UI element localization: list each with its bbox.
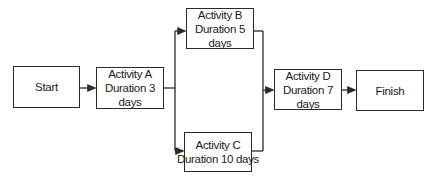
node-activity-c: Activity C Duration 10 days [184, 132, 252, 172]
node-activity-b: Activity B Duration 5 days [186, 8, 254, 49]
node-activity-d: Activity D Duration 7 days [274, 69, 342, 110]
node-label: Finish [376, 84, 405, 98]
node-start: Start [13, 66, 80, 108]
node-label: Activity D [286, 69, 331, 83]
node-duration: Duration 5 days [187, 22, 253, 50]
node-finish: Finish [356, 70, 424, 111]
node-label: Activity B [198, 8, 242, 22]
node-label: Activity C [196, 138, 241, 152]
node-label: Start [35, 80, 58, 94]
node-duration: Duration 3 days [97, 81, 163, 109]
node-duration: Duration 10 days [177, 152, 259, 166]
node-duration: Duration 7 days [275, 83, 341, 111]
node-activity-a: Activity A Duration 3 days [96, 67, 164, 109]
node-label: Activity A [108, 67, 152, 81]
